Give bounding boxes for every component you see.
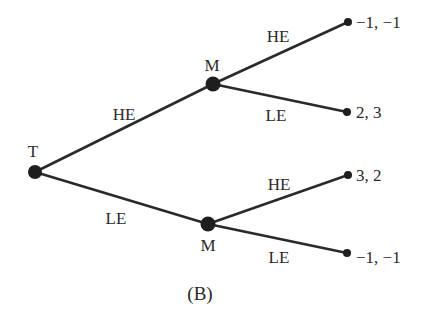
figure-caption: (B) (187, 283, 212, 305)
root-node (28, 165, 42, 179)
payoff-1: −1, −1 (356, 13, 401, 32)
edge-label-mbottom-le: LE (269, 248, 290, 267)
m-top-label: M (204, 56, 219, 75)
m-bottom-label: M (200, 236, 215, 255)
terminal-node-3 (344, 171, 352, 179)
payoff-4: −1, −1 (356, 248, 401, 267)
edge-label-mtop-he: HE (267, 27, 290, 46)
terminal-node-4 (343, 249, 351, 257)
payoff-2: 2, 3 (356, 103, 382, 122)
m-bottom-node (201, 217, 216, 232)
edge-t-he (35, 84, 213, 172)
game-tree-diagram: T M M HE LE HE LE HE LE −1, −1 2, 3 3, 2… (0, 0, 434, 318)
terminal-node-2 (343, 108, 351, 116)
payoff-3: 3, 2 (356, 166, 382, 185)
edge-label-t-le: LE (106, 209, 127, 228)
edge-label-mtop-le: LE (266, 106, 287, 125)
m-top-node (206, 77, 221, 92)
edge-label-t-he: HE (113, 105, 136, 124)
terminal-node-1 (344, 18, 352, 26)
root-label: T (28, 142, 39, 161)
edge-label-mbottom-he: HE (268, 175, 291, 194)
